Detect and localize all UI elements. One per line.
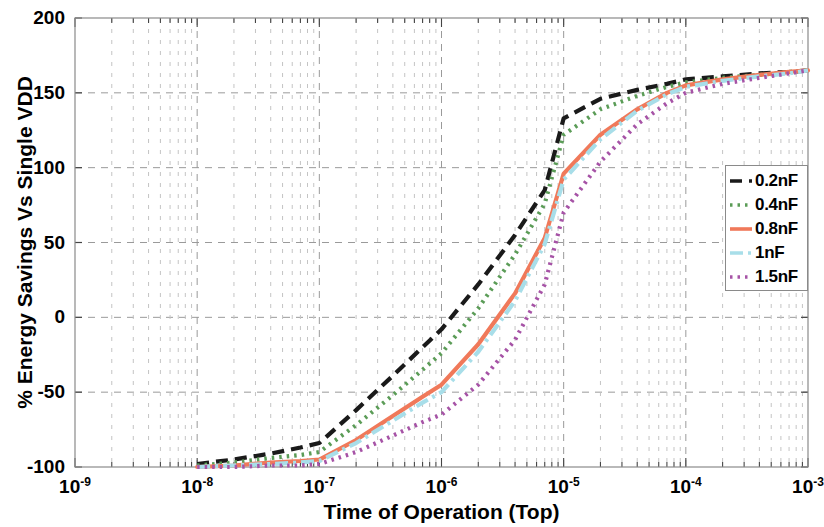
legend-item-0.8nF: 0.8nF [726,217,807,241]
y-tick-label: 50 [0,232,65,254]
x-tick-label: 10-4 [670,475,702,498]
chart-legend: 0.2nF0.4nF0.8nF1nF1.5nF [725,165,808,291]
x-tick-label: 10-5 [548,475,580,498]
legend-label: 1nF [755,243,784,263]
series-line-1nF [197,70,808,467]
series-line-0.4nF [197,70,808,465]
legend-item-1.5nF: 1.5nF [726,265,807,289]
x-tick-label: 10-7 [303,475,335,498]
chart-figure: % Energy Savings Vs Single VDD Time of O… [0,0,824,527]
y-tick-label: 100 [0,157,65,179]
legend-swatch-0.8nF [729,222,753,236]
legend-item-0.4nF: 0.4nF [726,193,807,217]
series-line-1.5nF [197,70,808,467]
series-line-0.8nF [197,70,808,467]
plot-canvas [0,0,824,527]
x-tick-label: 10-3 [792,475,824,498]
legend-swatch-1nF [729,246,753,260]
legend-label: 0.2nF [755,171,798,191]
x-tick-label: 10-9 [59,475,91,498]
y-tick-label: -50 [0,381,65,403]
legend-label: 0.8nF [755,219,798,239]
x-tick-label: 10-6 [426,475,458,498]
legend-label: 1.5nF [755,267,798,287]
x-tick-label: 10-8 [181,475,213,498]
legend-swatch-1.5nF [729,270,753,284]
y-tick-label: 0 [0,306,65,328]
legend-item-0.2nF: 0.2nF [726,169,807,193]
legend-swatch-0.2nF [729,174,753,188]
legend-item-1nF: 1nF [726,241,807,265]
legend-label: 0.4nF [755,195,798,215]
y-tick-label: -100 [0,456,65,478]
data-series-layer [197,70,808,467]
y-tick-label: 150 [0,82,65,104]
x-axis-title: Time of Operation (Top) [75,500,808,524]
series-line-0.2nF [197,70,808,464]
y-tick-label: 200 [0,7,65,29]
legend-swatch-0.4nF [729,198,753,212]
